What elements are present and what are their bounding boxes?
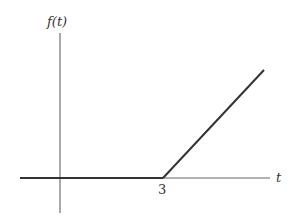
x-tick-3: 3: [158, 182, 166, 197]
y-axis-label: f(t): [46, 14, 67, 29]
x-axis-label: t: [276, 170, 282, 185]
function-ramp-segment: [163, 70, 264, 178]
ramp-function-plot: f(t) t 3: [0, 0, 296, 222]
